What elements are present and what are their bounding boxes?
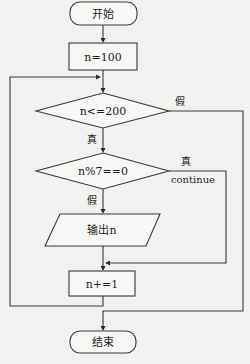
start-label: 开始 — [92, 9, 114, 20]
end-label: 结束 — [92, 337, 114, 348]
arrowhead-icon — [101, 266, 106, 271]
continue-label: continue — [171, 175, 215, 185]
flowchart-canvas: 开始 n=100 n<=200 n%7==0 输出n n+=1 结束 假 真 真… — [0, 0, 250, 364]
increment-label: n+=1 — [86, 279, 119, 290]
output-label: 输出n — [87, 225, 116, 236]
range-true-label: 真 — [87, 135, 97, 145]
init-label: n=100 — [84, 52, 121, 63]
arrowhead-icon — [101, 209, 106, 214]
arrowhead-icon — [101, 38, 106, 43]
mod-false-label: 假 — [87, 196, 97, 206]
arrowhead-icon — [96, 75, 101, 80]
mod-true-label: 真 — [181, 157, 191, 167]
arrowhead-icon — [101, 88, 106, 93]
arrowhead-icon — [105, 261, 110, 266]
range-condition-label: n<=200 — [80, 106, 127, 117]
range-false-label: 假 — [175, 97, 185, 107]
arrowhead-icon — [101, 148, 106, 153]
mod-condition-label: n%7==0 — [78, 166, 128, 177]
arrowhead-icon — [101, 326, 106, 331]
